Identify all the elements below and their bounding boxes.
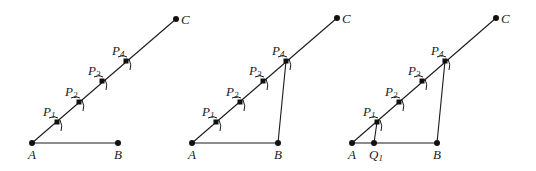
arc-mark — [219, 120, 221, 131]
segment-p1-q1 — [374, 122, 377, 143]
point-p2 — [238, 100, 243, 105]
point-p2 — [397, 100, 402, 105]
point-p1 — [55, 120, 60, 125]
label-p4: P4 — [111, 43, 125, 59]
arc-mark — [448, 59, 450, 70]
point-b — [434, 140, 440, 146]
point-b — [115, 140, 121, 146]
arc-mark — [402, 100, 404, 111]
label-p3: P3 — [87, 63, 101, 79]
label-c: C — [342, 11, 351, 26]
point-a — [29, 140, 35, 146]
point-p3 — [420, 79, 425, 84]
point-a — [349, 140, 355, 146]
label-p1: P1 — [362, 104, 375, 120]
arc-mark — [380, 120, 382, 131]
point-p3 — [261, 79, 266, 84]
label-a: A — [27, 147, 36, 162]
arc-mark — [105, 79, 107, 90]
label-q1: Q1 — [369, 147, 383, 163]
point-c — [173, 16, 179, 22]
label-p2: P2 — [225, 84, 239, 100]
label-p3: P3 — [248, 63, 262, 79]
label-b: B — [274, 147, 282, 162]
label-p1: P1 — [42, 104, 55, 120]
point-a — [189, 140, 195, 146]
label-p4: P4 — [271, 43, 285, 59]
arc-mark — [425, 79, 427, 90]
arc-mark — [129, 59, 131, 70]
point-p2 — [77, 100, 82, 105]
diagram-canvas: P1P2P3P4ABCP1P2P3P4ABCP1P2P3P4ABCQ1 — [0, 0, 536, 171]
point-b — [275, 140, 281, 146]
arc-mark — [60, 120, 62, 131]
label-p2: P2 — [384, 84, 398, 100]
point-c — [334, 15, 340, 21]
point-p4 — [124, 59, 129, 64]
point-p3 — [100, 79, 105, 84]
label-b: B — [114, 147, 122, 162]
figure-1: P1P2P3P4ABC — [27, 12, 190, 162]
label-c: C — [501, 11, 510, 26]
label-c: C — [181, 12, 190, 27]
point-c — [493, 15, 499, 21]
label-p2: P2 — [64, 84, 78, 100]
figure-3: P1P2P3P4ABCQ1 — [347, 11, 510, 163]
label-p4: P4 — [430, 43, 444, 59]
arc-mark — [266, 79, 268, 90]
segment-p4-b — [437, 61, 445, 143]
arc-mark — [243, 100, 245, 111]
point-p4 — [443, 59, 448, 64]
point-p1 — [375, 120, 380, 125]
arc-mark — [82, 100, 84, 111]
point-q1 — [371, 140, 377, 146]
label-a: A — [187, 147, 196, 162]
label-b: B — [433, 147, 441, 162]
figure-2: P1P2P3P4ABC — [187, 11, 351, 162]
label-p3: P3 — [407, 63, 421, 79]
arc-mark — [289, 59, 291, 70]
point-p1 — [214, 120, 219, 125]
segment-p4-b — [278, 61, 286, 143]
construction-diagram: P1P2P3P4ABCP1P2P3P4ABCP1P2P3P4ABCQ1 — [0, 0, 536, 171]
label-p1: P1 — [201, 104, 214, 120]
point-p4 — [284, 59, 289, 64]
label-a: A — [347, 147, 356, 162]
